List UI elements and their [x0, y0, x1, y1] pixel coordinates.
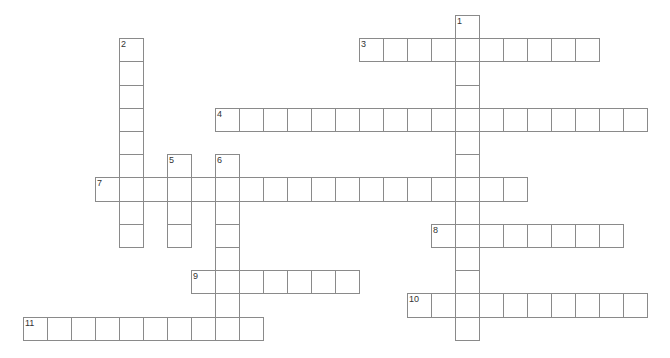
crossword-cell[interactable]	[119, 317, 144, 341]
crossword-cell[interactable]	[239, 317, 264, 341]
crossword-cell[interactable]	[503, 293, 528, 317]
crossword-cell[interactable]	[455, 108, 480, 132]
crossword-cell[interactable]	[503, 177, 528, 201]
crossword-cell[interactable]	[455, 131, 480, 155]
crossword-cell[interactable]	[551, 224, 576, 248]
crossword-cell[interactable]	[407, 177, 432, 201]
crossword-cell[interactable]	[503, 38, 528, 62]
crossword-cell[interactable]	[239, 177, 264, 201]
crossword-cell[interactable]	[431, 293, 456, 317]
crossword-cell[interactable]	[47, 317, 72, 341]
crossword-cell[interactable]	[263, 177, 288, 201]
crossword-cell[interactable]: 3	[359, 38, 384, 62]
crossword-cell[interactable]	[191, 177, 216, 201]
crossword-cell[interactable]	[119, 224, 144, 248]
crossword-cell[interactable]	[407, 38, 432, 62]
crossword-cell[interactable]	[239, 108, 264, 132]
crossword-cell[interactable]	[455, 247, 480, 271]
crossword-cell[interactable]	[455, 85, 480, 109]
crossword-cell[interactable]	[455, 201, 480, 225]
crossword-cell[interactable]	[527, 108, 552, 132]
crossword-cell[interactable]	[119, 201, 144, 225]
crossword-cell[interactable]	[431, 177, 456, 201]
crossword-cell[interactable]: 1	[455, 15, 480, 39]
crossword-cell[interactable]	[479, 293, 504, 317]
crossword-cell[interactable]: 2	[119, 38, 144, 62]
crossword-cell[interactable]	[383, 108, 408, 132]
crossword-cell[interactable]	[287, 270, 312, 294]
crossword-cell[interactable]	[479, 224, 504, 248]
crossword-cell[interactable]: 4	[215, 108, 240, 132]
crossword-cell[interactable]	[119, 85, 144, 109]
crossword-cell[interactable]	[119, 154, 144, 178]
crossword-cell[interactable]: 8	[431, 224, 456, 248]
crossword-cell[interactable]	[215, 224, 240, 248]
crossword-cell[interactable]	[551, 108, 576, 132]
crossword-cell[interactable]	[455, 317, 480, 341]
crossword-cell[interactable]	[359, 177, 384, 201]
crossword-cell[interactable]	[239, 270, 264, 294]
crossword-cell[interactable]	[263, 108, 288, 132]
crossword-cell[interactable]: 5	[167, 154, 192, 178]
crossword-cell[interactable]	[599, 293, 624, 317]
crossword-cell[interactable]	[215, 247, 240, 271]
crossword-cell[interactable]	[215, 293, 240, 317]
crossword-cell[interactable]	[551, 38, 576, 62]
crossword-cell[interactable]	[95, 317, 120, 341]
crossword-cell[interactable]	[431, 108, 456, 132]
crossword-cell[interactable]	[599, 224, 624, 248]
crossword-cell[interactable]	[455, 154, 480, 178]
crossword-cell[interactable]	[311, 270, 336, 294]
crossword-cell[interactable]	[623, 108, 648, 132]
crossword-cell[interactable]	[287, 108, 312, 132]
crossword-cell[interactable]	[263, 270, 288, 294]
crossword-cell[interactable]	[479, 38, 504, 62]
crossword-cell[interactable]	[527, 38, 552, 62]
crossword-cell[interactable]	[455, 293, 480, 317]
crossword-cell[interactable]	[311, 108, 336, 132]
crossword-cell[interactable]	[431, 38, 456, 62]
crossword-cell[interactable]	[287, 177, 312, 201]
crossword-cell[interactable]	[383, 38, 408, 62]
crossword-cell[interactable]	[455, 177, 480, 201]
crossword-cell[interactable]: 10	[407, 293, 432, 317]
crossword-cell[interactable]	[215, 317, 240, 341]
crossword-cell[interactable]	[119, 177, 144, 201]
crossword-cell[interactable]	[623, 293, 648, 317]
crossword-cell[interactable]: 6	[215, 154, 240, 178]
crossword-cell[interactable]: 11	[23, 317, 48, 341]
crossword-cell[interactable]	[479, 108, 504, 132]
crossword-cell[interactable]	[575, 38, 600, 62]
crossword-cell[interactable]	[383, 177, 408, 201]
crossword-cell[interactable]	[575, 293, 600, 317]
crossword-cell[interactable]	[143, 317, 168, 341]
crossword-cell[interactable]	[311, 177, 336, 201]
crossword-cell[interactable]	[455, 38, 480, 62]
crossword-cell[interactable]: 9	[191, 270, 216, 294]
crossword-cell[interactable]	[215, 201, 240, 225]
crossword-cell[interactable]	[359, 108, 384, 132]
crossword-cell[interactable]	[119, 108, 144, 132]
crossword-cell[interactable]	[479, 177, 504, 201]
crossword-cell[interactable]	[335, 270, 360, 294]
crossword-cell[interactable]	[599, 108, 624, 132]
crossword-cell[interactable]	[455, 61, 480, 85]
crossword-cell[interactable]	[119, 61, 144, 85]
crossword-cell[interactable]	[551, 293, 576, 317]
crossword-cell[interactable]	[167, 224, 192, 248]
crossword-cell[interactable]	[167, 177, 192, 201]
crossword-cell[interactable]	[503, 108, 528, 132]
crossword-cell[interactable]	[455, 224, 480, 248]
crossword-cell[interactable]	[527, 293, 552, 317]
crossword-cell[interactable]	[143, 177, 168, 201]
crossword-cell[interactable]	[455, 270, 480, 294]
crossword-cell[interactable]	[215, 177, 240, 201]
crossword-cell[interactable]	[335, 108, 360, 132]
crossword-cell[interactable]	[167, 201, 192, 225]
crossword-cell[interactable]	[335, 177, 360, 201]
crossword-cell[interactable]	[503, 224, 528, 248]
crossword-cell[interactable]	[191, 317, 216, 341]
crossword-cell[interactable]	[215, 270, 240, 294]
crossword-cell[interactable]	[575, 224, 600, 248]
crossword-cell[interactable]	[167, 317, 192, 341]
